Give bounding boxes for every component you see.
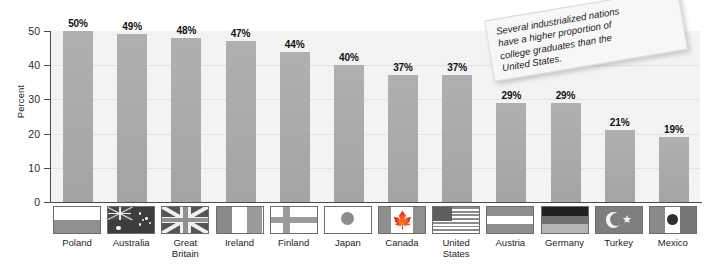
- flag-emblem: [145, 217, 148, 220]
- bar[interactable]: [605, 130, 635, 202]
- category-japan: Japan: [321, 206, 375, 249]
- flag-band: [542, 207, 588, 216]
- bar-value-label: 40%: [322, 52, 376, 63]
- country-label: Canada: [375, 238, 429, 249]
- bar-group: [376, 31, 430, 202]
- flag-band: [247, 207, 262, 233]
- bar[interactable]: [388, 75, 418, 202]
- bar-value-label: 48%: [159, 25, 213, 36]
- category-great-britain: GreatBritain: [158, 206, 212, 259]
- bar-value-label: 19%: [647, 124, 701, 135]
- category-mexico: Mexico: [646, 206, 700, 249]
- country-label: GreatBritain: [158, 238, 212, 259]
- flag-emblem: [142, 219, 144, 221]
- flag-band: [433, 222, 479, 224]
- bar[interactable]: [280, 52, 310, 202]
- flag-japan-icon: [324, 206, 372, 234]
- bar[interactable]: [551, 103, 581, 202]
- flag-australia-icon: [107, 206, 155, 234]
- y-tick-20: [44, 134, 50, 135]
- flag-band: [680, 207, 695, 233]
- bar-group: [51, 31, 105, 202]
- bar-group: [268, 31, 322, 202]
- y-tick-label-50: 50: [14, 26, 40, 37]
- flag-poland-icon: [53, 206, 101, 234]
- bar-value-label: 47%: [214, 28, 268, 39]
- crescent-cutout: [610, 213, 623, 226]
- flag-band: [183, 207, 189, 233]
- category-germany: Germany: [538, 206, 592, 249]
- flag-emblem: [116, 226, 120, 230]
- category-axis: PolandAustraliaGreatBritainIrelandFinlan…: [50, 206, 700, 272]
- country-label-line2: States: [443, 248, 470, 259]
- flag-ireland-icon: [216, 206, 264, 234]
- bar[interactable]: [171, 38, 201, 202]
- bar[interactable]: [334, 65, 364, 202]
- bar-group: [430, 31, 484, 202]
- bar-group: [159, 31, 213, 202]
- y-tick-40: [44, 65, 50, 66]
- category-canada: 🍁Canada: [375, 206, 429, 249]
- bar-group: [214, 31, 268, 202]
- bar-value-label: 21%: [593, 117, 647, 128]
- flag-band: [283, 207, 290, 233]
- flag-finland-icon: [270, 206, 318, 234]
- country-label: Germany: [538, 238, 592, 249]
- flag-emblem: [139, 212, 142, 215]
- flag-emblem: [149, 222, 151, 224]
- bar-value-label: 29%: [484, 90, 538, 101]
- y-tick-label-10: 10: [14, 163, 40, 174]
- bar-value-label: 37%: [376, 62, 430, 73]
- country-label-line2: Britain: [172, 248, 199, 259]
- y-tick-50: [44, 31, 50, 32]
- bar-value-label: 44%: [268, 39, 322, 50]
- maple-leaf-icon: 🍁: [392, 212, 413, 229]
- flag-band: [542, 216, 588, 225]
- star-icon: ★: [622, 214, 632, 225]
- flag-canada-icon: 🍁: [378, 206, 426, 234]
- canton: [433, 207, 451, 221]
- bar[interactable]: [496, 103, 526, 202]
- country-label: Australia: [104, 238, 158, 249]
- bar[interactable]: [63, 31, 93, 202]
- bar-value-label: 29%: [539, 90, 593, 101]
- y-axis-title: Percent: [15, 62, 26, 142]
- flag-band: [108, 213, 131, 214]
- country-label: Mexico: [646, 238, 700, 249]
- category-austria: Austria: [483, 206, 537, 249]
- country-label: Turkey: [592, 238, 646, 249]
- flag-band: [232, 207, 247, 233]
- country-label: Ireland: [213, 238, 267, 249]
- flag-band: [542, 224, 588, 233]
- bar[interactable]: [442, 75, 472, 202]
- flag-emblem: [139, 223, 142, 226]
- category-australia: Australia: [104, 206, 158, 249]
- flag-band: [487, 224, 533, 233]
- flag-emblem: [341, 212, 354, 225]
- flag-mexico-icon: [649, 206, 697, 234]
- flag-band: [217, 207, 232, 233]
- bar[interactable]: [117, 34, 147, 202]
- flag-band: [54, 220, 100, 233]
- bar-value-label: 37%: [430, 62, 484, 73]
- flag-band: [487, 216, 533, 225]
- flag-band: [487, 207, 533, 216]
- bar-group: [647, 31, 701, 202]
- category-united-states: UnitedStates: [429, 206, 483, 259]
- category-poland: Poland: [50, 206, 104, 249]
- bar-value-label: 49%: [105, 21, 159, 32]
- bar[interactable]: [659, 137, 689, 202]
- flag-great-britain-icon: [161, 206, 209, 234]
- country-label: Poland: [50, 238, 104, 249]
- bar-value-label: 50%: [51, 18, 105, 29]
- y-tick-10: [44, 168, 50, 169]
- flag-band: [433, 229, 479, 231]
- category-finland: Finland: [267, 206, 321, 249]
- country-label: Finland: [267, 238, 321, 249]
- flag-band: [379, 207, 391, 233]
- bar[interactable]: [226, 41, 256, 202]
- country-label: Austria: [483, 238, 537, 249]
- flag-united-states-icon: [432, 206, 480, 234]
- flag-band: [271, 217, 317, 223]
- country-label: Japan: [321, 238, 375, 249]
